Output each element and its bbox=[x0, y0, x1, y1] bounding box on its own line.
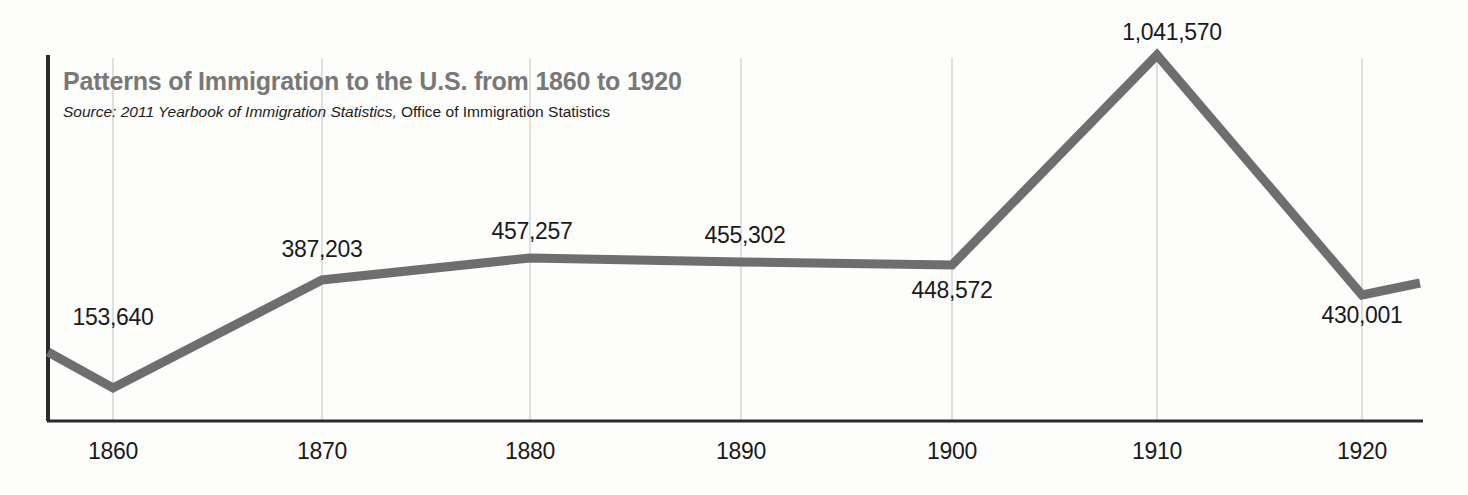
value-label-1910: 1,041,570 bbox=[1122, 19, 1222, 46]
x-tick-1880: 1880 bbox=[505, 438, 555, 465]
x-tick-1900: 1900 bbox=[927, 438, 977, 465]
x-tick-1910: 1910 bbox=[1132, 438, 1182, 465]
x-tick-1920: 1920 bbox=[1337, 438, 1387, 465]
immigration-line-chart: Patterns of Immigration to the U.S. from… bbox=[0, 0, 1468, 495]
value-label-1870: 387,203 bbox=[281, 236, 362, 263]
value-label-1890: 455,302 bbox=[704, 222, 785, 249]
x-tick-1870: 1870 bbox=[297, 438, 347, 465]
value-label-1920: 430,001 bbox=[1321, 302, 1402, 329]
x-tick-1860: 1860 bbox=[88, 438, 138, 465]
x-tick-1890: 1890 bbox=[716, 438, 766, 465]
value-label-1880: 457,257 bbox=[491, 218, 572, 245]
value-label-1900: 448,572 bbox=[911, 277, 992, 304]
value-label-1860: 153,640 bbox=[72, 304, 153, 331]
